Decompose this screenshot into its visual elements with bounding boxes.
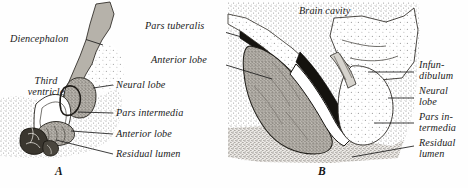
label-pars-intermedia: Pars intermedia xyxy=(116,108,183,119)
label-anterior-lobe-b: Anterior lobe xyxy=(151,55,207,66)
label-infundibulum: Infun- dibulum xyxy=(419,60,453,81)
label-pars-tuberalis: Pars tuberalis xyxy=(145,21,204,32)
label-third-ventricle: Third ventricle xyxy=(14,76,78,97)
label-neural-lobe-b: Neural lobe xyxy=(419,86,448,107)
label-diencephalon: Diencephalon xyxy=(10,34,68,45)
panel-b-artwork xyxy=(214,2,420,163)
label-residual-lumen: Residual lumen xyxy=(116,149,181,160)
panel-label-b: B xyxy=(318,165,326,177)
label-neural-lobe: Neural lobe xyxy=(116,80,166,91)
label-anterior-lobe: Anterior lobe xyxy=(116,129,172,140)
panel-label-a: A xyxy=(55,165,63,177)
label-pars-intermedia-b: Pars in- termedia xyxy=(419,112,456,133)
label-brain-cavity: Brain cavity xyxy=(299,6,350,17)
label-residual-lumen-b: Residual lumen xyxy=(419,138,455,159)
anatomical-figure: Diencephalon Third ventricle Neural lobe… xyxy=(0,0,468,188)
